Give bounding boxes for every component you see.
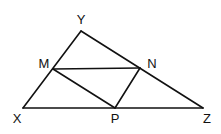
label-M: M bbox=[39, 56, 50, 71]
segments bbox=[23, 31, 203, 108]
label-X: X bbox=[13, 111, 22, 126]
triangle-diagram: Y M N X P Z bbox=[0, 0, 221, 134]
label-N: N bbox=[147, 56, 156, 71]
label-Y: Y bbox=[77, 12, 86, 27]
segment-MN bbox=[53, 68, 140, 69]
label-P: P bbox=[111, 111, 120, 126]
segment-NP bbox=[115, 68, 140, 108]
label-Z: Z bbox=[203, 111, 211, 126]
segment-MP bbox=[53, 69, 115, 108]
segment-YZ bbox=[81, 31, 203, 108]
